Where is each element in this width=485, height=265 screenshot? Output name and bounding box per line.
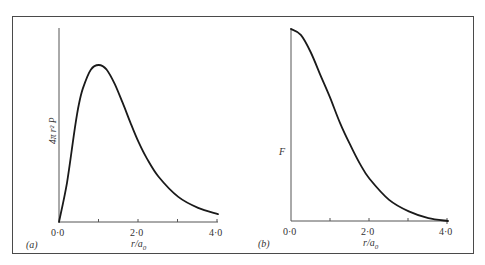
panel-a-ylabel-text: 4π r² P xyxy=(48,117,58,144)
figure-canvas xyxy=(0,0,485,265)
panel-b-tick-label-2: 2·0 xyxy=(361,227,374,237)
panel-b-plot xyxy=(291,28,448,224)
panel-b-ylabel: F xyxy=(279,147,285,157)
panel-a-tick-label-4: 4·0 xyxy=(209,228,222,238)
panel-a-curve xyxy=(59,65,218,222)
panel-a-xlabel: r/a0 xyxy=(131,239,146,252)
panel-b-xlabel: r/a0 xyxy=(363,238,378,251)
figure-frame xyxy=(13,17,474,254)
panel-a-plot xyxy=(59,28,218,222)
panel-a-xlabel-main: r/a xyxy=(131,238,143,249)
panel-a-ylabel: 4π r² P xyxy=(49,111,59,151)
panel-a-tick-label-2: 2·0 xyxy=(130,228,143,238)
panel-b-label: (b) xyxy=(258,239,270,249)
panel-b-tick-label-4: 4·0 xyxy=(439,227,452,237)
panel-a-tick-label-0: 0·0 xyxy=(51,228,64,238)
panel-b-curve xyxy=(291,29,448,221)
panel-a-label: (a) xyxy=(26,240,38,250)
panel-b-xlabel-sub: 0 xyxy=(375,243,379,251)
panel-a-xlabel-sub: 0 xyxy=(143,244,147,252)
panel-b-xlabel-main: r/a xyxy=(363,237,375,248)
panel-b-tick-label-0: 0·0 xyxy=(283,227,296,237)
